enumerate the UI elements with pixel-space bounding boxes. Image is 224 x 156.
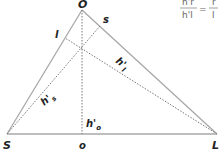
altitude-label-h-l: h'l bbox=[112, 55, 131, 74]
altitude-label-h-o: h'o bbox=[86, 118, 101, 132]
formula-numerator-left: h'r bbox=[182, 0, 194, 7]
formula-equals: = bbox=[199, 4, 207, 14]
vertex-label-L: L bbox=[212, 139, 219, 152]
ratio-formula: h'r h'l = r l bbox=[180, 0, 218, 20]
altitude-label-h-s: h's bbox=[38, 90, 58, 110]
formula-denominator-left: h'l bbox=[182, 10, 193, 20]
svg-text:h'l: h'l bbox=[112, 55, 131, 74]
formula-denominator-right: l bbox=[212, 10, 215, 20]
vertex-label-S: S bbox=[3, 139, 11, 152]
formula-numerator-right: r bbox=[212, 0, 216, 7]
foot-label-s: s bbox=[103, 14, 109, 25]
edge-OS bbox=[7, 10, 82, 134]
vertex-label-O: O bbox=[78, 0, 87, 11]
foot-label-l: l bbox=[55, 29, 59, 40]
edge-OL bbox=[82, 10, 217, 134]
foot-label-o: o bbox=[79, 140, 86, 151]
svg-text:h'o: h'o bbox=[86, 118, 101, 132]
svg-text:h's: h's bbox=[38, 90, 58, 110]
triangle-diagram: O S L o s l h'l h's h'o h'r h'l = r l bbox=[0, 0, 224, 156]
